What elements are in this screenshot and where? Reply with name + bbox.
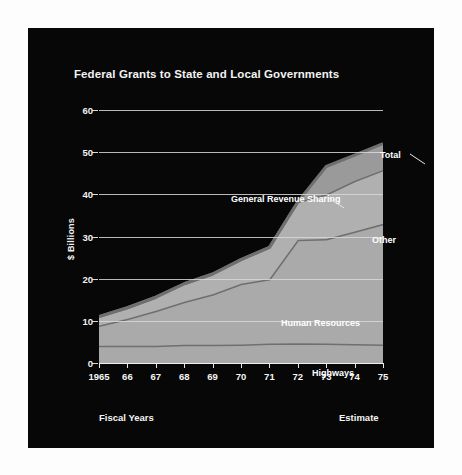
x-tick-mark — [127, 363, 128, 368]
x-tick-mark — [383, 363, 384, 368]
estimate-note: Estimate — [339, 412, 379, 423]
y-axis-label: $ Billions — [66, 218, 76, 260]
x-tick-mark — [241, 363, 242, 368]
x-tick-label: 75 — [378, 371, 389, 382]
gridline — [99, 237, 383, 238]
x-axis-label: Fiscal Years — [99, 412, 154, 423]
x-tick-mark — [184, 363, 185, 368]
y-tick-label: 30 — [82, 231, 93, 242]
y-tick-label: 60 — [82, 105, 93, 116]
y-tick-label: 50 — [82, 147, 93, 158]
x-tick-mark — [213, 363, 214, 368]
gridline — [99, 152, 383, 153]
y-tick-label: 10 — [82, 315, 93, 326]
annotation-other: Other — [372, 235, 396, 245]
x-tick-label: 66 — [122, 371, 133, 382]
annotation-general-revenue-sharing: General Revenue Sharing — [231, 194, 341, 204]
y-tick-label: 0 — [88, 358, 93, 369]
gridline — [99, 110, 383, 111]
x-tick-mark — [269, 363, 270, 368]
x-tick-mark — [156, 363, 157, 368]
x-tick-mark — [298, 363, 299, 368]
x-tick-label: 72 — [293, 371, 304, 382]
x-tick-label: 70 — [236, 371, 247, 382]
x-tick-label: 68 — [179, 371, 190, 382]
annotation-total: Total — [380, 150, 401, 160]
chart-panel: Federal Grants to State and Local Govern… — [28, 28, 434, 448]
x-tick-label: 69 — [207, 371, 218, 382]
y-tick-label: 40 — [82, 189, 93, 200]
x-tick-mark — [355, 363, 356, 368]
gridline — [99, 279, 383, 280]
annotation-highways: Highways — [312, 368, 354, 378]
x-tick-mark — [99, 363, 100, 368]
page-title: Federal Grants to State and Local Govern… — [74, 68, 339, 80]
annotation-human-resources: Human Resources — [281, 318, 360, 328]
x-tick-label: 71 — [264, 371, 275, 382]
chart-page: Federal Grants to State and Local Govern… — [0, 0, 462, 475]
y-tick-label: 20 — [82, 273, 93, 284]
x-tick-label: 1965 — [88, 371, 109, 382]
x-tick-label: 67 — [151, 371, 162, 382]
